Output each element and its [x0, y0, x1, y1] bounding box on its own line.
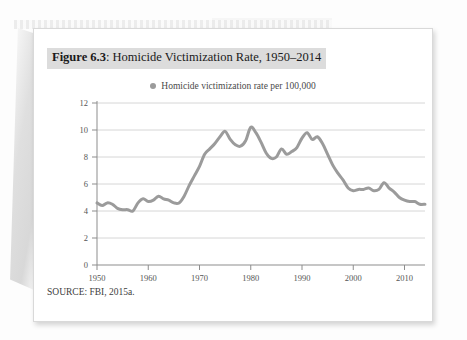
figure-number: Figure 6.3 [52, 50, 106, 64]
line-chart-svg: 024681012 1950196019701980199020002010 [39, 95, 429, 295]
figure-title-container: Figure 6.3: Homicide Victimization Rate,… [47, 47, 326, 69]
x-axis: 1950196019701980199020002010 [89, 265, 426, 283]
y-axis-tick-label: 8 [84, 152, 88, 162]
legend-item-label: Homicide victimization rate per 100,000 [161, 81, 315, 91]
y-axis: 024681012 [80, 98, 98, 270]
series-line [97, 127, 425, 211]
data-series [97, 127, 425, 211]
x-axis-tick-label: 2000 [345, 273, 362, 283]
figure-card: Figure 6.3: Homicide Victimization Rate,… [33, 28, 433, 322]
x-axis-tick-label: 1980 [242, 273, 259, 283]
y-axis-tick-label: 0 [84, 260, 88, 270]
x-axis-tick-label: 1950 [89, 273, 106, 283]
y-axis-tick-label: 12 [80, 98, 89, 108]
y-axis-tick-label: 2 [84, 233, 88, 243]
source-note: SOURCE: FBI, 2015a. [47, 287, 135, 297]
chart-legend: Homicide victimization rate per 100,000 [34, 81, 432, 91]
figure-title-separator: : [106, 50, 113, 64]
x-axis-tick-label: 1990 [294, 273, 311, 283]
figure-title-text: Homicide Victimization Rate, 1950–2014 [113, 50, 322, 64]
y-axis-tick-label: 10 [80, 125, 89, 135]
grid-lines [97, 103, 425, 238]
chart-plot-area: 024681012 1950196019701980199020002010 [39, 95, 429, 295]
x-axis-tick-label: 2010 [396, 273, 413, 283]
x-axis-tick-label: 1960 [140, 273, 157, 283]
page-title: Figure 6.3: Homicide Victimization Rate,… [47, 48, 326, 69]
y-axis-tick-label: 6 [84, 179, 88, 189]
legend-marker-dot-icon [150, 83, 156, 89]
y-axis-tick-label: 4 [84, 206, 89, 216]
x-axis-tick-label: 1970 [191, 273, 208, 283]
